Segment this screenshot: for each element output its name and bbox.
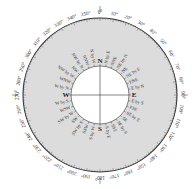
degree-label: 210° [53,162,65,172]
degree-label: 240° [23,131,33,143]
degree-label: 200° [66,168,77,177]
degree-label: 70° [174,62,182,71]
degree-label: 290° [18,61,27,72]
degree-label: 20° [124,13,133,21]
degree-label: 170° [109,173,120,181]
degree-label: 90° [180,91,186,98]
degree-label: 150° [136,162,148,172]
degree-label: 30° [137,19,146,28]
degree-label: 0° [98,9,103,15]
degree-label: 250° [18,118,27,129]
degree-label: 300° [23,48,33,60]
degree-label: 110° [173,118,182,129]
degree-label: 10° [110,10,118,17]
cardinal-label: N [97,57,102,65]
degree-label: 40° [149,27,158,36]
degree-label: 350° [80,10,91,18]
degree-label: 270° [14,90,20,100]
degree-label: 50° [159,37,168,46]
degree-label: 120° [167,131,177,143]
degree-label: 100° [178,104,186,115]
degree-label: 330° [53,18,65,28]
degree-label: 190° [80,173,91,181]
degree-label: 280° [15,75,23,86]
degree-label: 260° [15,104,23,115]
cardinal-label: E [132,91,137,99]
degree-label: 180° [95,175,105,181]
degree-label: 60° [167,49,176,58]
degree-label: 160° [123,168,134,177]
degree-label: 80° [178,77,185,85]
degree-label: 340° [66,13,77,22]
compass-rose: 0°10°20°30°40°50°60°70°80°90°100°110°120… [0,0,195,189]
cardinal-label: W [63,91,70,99]
